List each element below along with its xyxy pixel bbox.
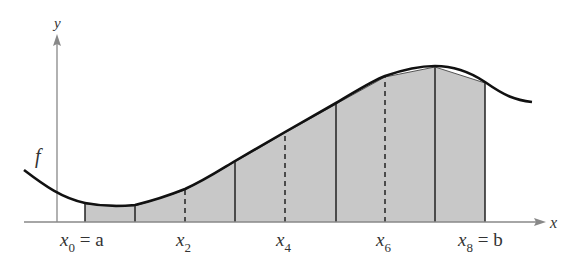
svg-text:x0 = a: x0 = a xyxy=(59,229,104,255)
svg-text:x4: x4 xyxy=(275,229,291,255)
svg-text:x6: x6 xyxy=(375,229,391,255)
tick-label-x8: x8 = b xyxy=(457,229,503,255)
tick-label-x4: x4 xyxy=(275,229,291,255)
tick-label-x0: x0 = a xyxy=(59,229,104,255)
tick-label-x2: x2 xyxy=(175,229,191,255)
svg-text:x8 = b: x8 = b xyxy=(457,229,503,255)
trapezoid-area xyxy=(85,67,485,222)
x-axis-label: x xyxy=(549,214,557,231)
svg-text:x2: x2 xyxy=(175,229,191,255)
tick-label-x6: x6 xyxy=(375,229,391,255)
trapezoid-rule-diagram: y x f x0 = a x2 x4 x6 x8 = b xyxy=(0,0,574,269)
y-axis-label: y xyxy=(52,15,61,31)
function-label: f xyxy=(35,145,43,168)
